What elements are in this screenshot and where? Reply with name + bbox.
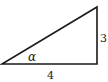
triangle-diagram: α 3 4 xyxy=(0,0,108,82)
right-triangle xyxy=(2,7,97,64)
horizontal-side-label: 4 xyxy=(47,69,54,82)
angle-label: α xyxy=(28,50,36,64)
vertical-side-label: 3 xyxy=(100,32,107,45)
